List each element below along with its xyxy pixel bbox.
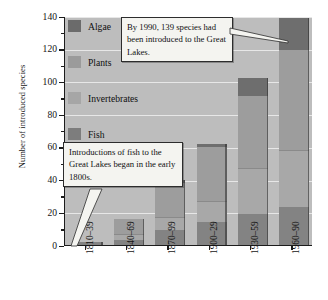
y-axis-ticks: 020406080100120140 <box>0 17 64 246</box>
x-tick-1840-69: 1840–69 <box>105 246 146 300</box>
x-tick-label: 1870–99 <box>167 221 177 254</box>
legend-label: Algae <box>88 21 111 32</box>
legend-item-plants: Plants <box>68 56 111 68</box>
bar-edge <box>184 180 185 245</box>
annotation-callout-1990: By 1990, 139 species had been introduced… <box>121 17 233 62</box>
chart-figure: Number of introduced species 02040608010… <box>0 0 328 300</box>
bar-segment-plants <box>238 96 268 168</box>
legend-item-algae: Algae <box>68 20 111 32</box>
bar-segment-algae <box>238 78 268 96</box>
bar-edge <box>267 78 268 245</box>
y-tick-label: 80 <box>47 109 57 120</box>
x-tick-label: 1900–29 <box>209 221 219 254</box>
x-tick-1810-39: 1810–39 <box>64 246 105 300</box>
x-tick-1870-99: 1870–99 <box>147 246 188 300</box>
y-tick-label: 100 <box>43 76 57 87</box>
y-tick-label: 40 <box>47 174 57 185</box>
annotation-leader-line-fish <box>66 189 110 249</box>
y-tick-label: 120 <box>43 43 57 54</box>
bar-segment-invertebrates <box>238 168 268 214</box>
bar-segment-plants <box>155 183 185 217</box>
legend-swatch-invertebrates <box>68 92 81 104</box>
annotation-leader-line-1990 <box>230 24 292 50</box>
legend-label: Fish <box>88 129 105 140</box>
legend-swatch-fish <box>68 128 81 140</box>
legend-swatch-algae <box>68 20 81 32</box>
legend-swatch-plants <box>68 56 81 68</box>
y-tick-label: 60 <box>47 141 57 152</box>
bar-segment-plants <box>279 50 309 150</box>
x-tick-1960-90: 1960–90 <box>271 246 312 300</box>
bar-segment-invertebrates <box>197 201 227 222</box>
legend-item-fish: Fish <box>68 128 105 140</box>
bar-edge <box>225 144 226 245</box>
bar-segment-invertebrates <box>279 150 309 207</box>
x-tick-label: 1930–59 <box>250 221 260 254</box>
bar-segment-plants <box>197 147 227 201</box>
bar-1960-90 <box>279 18 309 245</box>
bar-edge <box>308 18 309 245</box>
legend-item-invertebrates: Invertebrates <box>68 92 138 104</box>
bar-edge <box>143 219 144 245</box>
legend-label: Plants <box>88 57 111 68</box>
x-tick-1900-29: 1900–29 <box>188 246 229 300</box>
annotation-callout-fish: Introductions of fish to the Great Lakes… <box>63 142 183 187</box>
x-tick-1930-59: 1930–59 <box>229 246 270 300</box>
bar-segment-algae <box>197 144 227 147</box>
y-tick-label: 140 <box>43 11 57 22</box>
y-tick-label: 20 <box>47 207 57 218</box>
y-tick-label: 0 <box>52 240 57 251</box>
x-axis-ticks: 1810–391840–691870–991900–291930–591960–… <box>64 246 312 300</box>
bar-1930-59 <box>238 78 268 245</box>
x-tick-label: 1960–90 <box>291 221 301 254</box>
x-tick-label: 1840–69 <box>126 221 136 254</box>
legend-label: Invertebrates <box>88 93 138 104</box>
